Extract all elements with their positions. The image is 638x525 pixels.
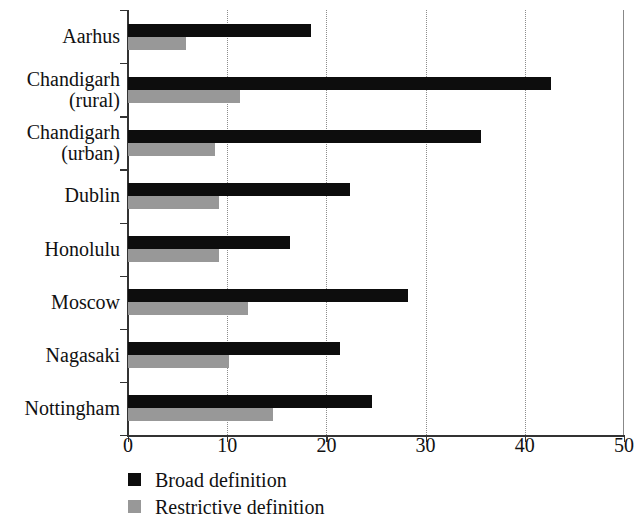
gridline-30 — [426, 10, 428, 435]
category-label-dublin: Dublin — [64, 185, 120, 206]
category-label-nottingham: Nottingham — [24, 398, 120, 419]
gridline-40 — [525, 10, 527, 435]
y-tick-6 — [120, 329, 128, 330]
category-label-moscow: Moscow — [51, 292, 120, 313]
bar-restrictive — [128, 37, 186, 50]
category-label-line: Nottingham — [24, 398, 120, 419]
y-tick-3 — [120, 169, 128, 170]
bar-restrictive — [128, 355, 229, 368]
category-label-line: Moscow — [51, 292, 120, 313]
bar-broad — [128, 289, 408, 302]
y-tick-7 — [120, 382, 128, 383]
bar-chart-figure: 01020304050 AarhusChandigarh(rural)Chand… — [0, 0, 638, 525]
category-label-line: (urban) — [27, 143, 120, 164]
legend-swatch-restrictive-icon — [128, 500, 141, 513]
x-axis-line — [127, 435, 624, 437]
plot-area — [128, 10, 624, 435]
bar-restrictive — [128, 196, 219, 209]
category-label-aarhus: Aarhus — [62, 26, 120, 47]
category-label-honolulu: Honolulu — [44, 239, 120, 260]
x-tick-label-30: 30 — [416, 434, 436, 456]
x-tick-label-20: 20 — [316, 434, 336, 456]
bar-restrictive — [128, 90, 240, 103]
gridline-20 — [326, 10, 328, 435]
bar-broad — [128, 342, 340, 355]
bar-broad — [128, 395, 372, 408]
bar-restrictive — [128, 249, 219, 262]
category-label-line: Dublin — [64, 185, 120, 206]
y-tick-4 — [120, 223, 128, 224]
x-tick-label-0: 0 — [123, 434, 133, 456]
legend-swatch-broad-icon — [128, 473, 141, 486]
x-tick-label-10: 10 — [217, 434, 237, 456]
bar-broad — [128, 236, 290, 249]
bar-broad — [128, 24, 311, 37]
bar-restrictive — [128, 302, 248, 315]
bar-broad — [128, 183, 350, 196]
bar-broad — [128, 77, 551, 90]
x-tick-label-40: 40 — [515, 434, 535, 456]
category-label-line: Honolulu — [44, 239, 120, 260]
plot-right-border — [623, 10, 624, 435]
gridline-10 — [227, 10, 229, 435]
legend-label-broad: Broad definition — [155, 469, 287, 491]
bar-restrictive — [128, 143, 215, 156]
category-label-line: Chandigarh — [27, 122, 120, 143]
category-label-line: Chandigarh — [27, 69, 120, 90]
x-tick-label-50: 50 — [614, 434, 634, 456]
legend-item-broad: Broad definition — [128, 466, 528, 493]
y-tick-2 — [120, 116, 128, 117]
chart-legend: Broad definition Restrictive definition — [128, 466, 528, 520]
y-tick-5 — [120, 276, 128, 277]
y-tick-0 — [120, 10, 128, 11]
bar-broad — [128, 130, 481, 143]
category-label-line: Nagasaki — [46, 345, 120, 366]
legend-label-restrictive: Restrictive definition — [155, 496, 324, 518]
category-label-nagasaki: Nagasaki — [46, 345, 120, 366]
category-label-line: Aarhus — [62, 26, 120, 47]
bar-restrictive — [128, 408, 273, 421]
category-label-chandigarh-urban: Chandigarh(urban) — [27, 122, 120, 164]
legend-item-restrictive: Restrictive definition — [128, 493, 528, 520]
y-tick-1 — [120, 63, 128, 64]
category-label-chandigarh-rural: Chandigarh(rural) — [27, 69, 120, 111]
category-label-line: (rural) — [27, 90, 120, 111]
